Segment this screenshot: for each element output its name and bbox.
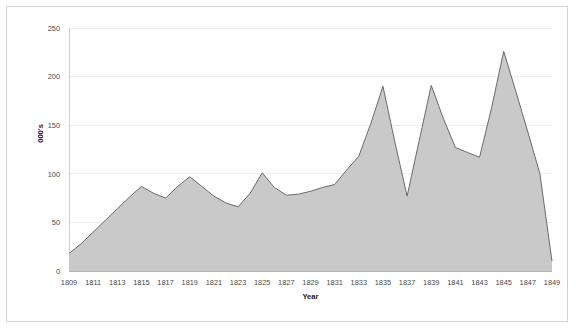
x-tick-label: 1831 bbox=[326, 278, 342, 287]
x-axis-title: Year bbox=[302, 292, 318, 301]
area-chart: 0501001502002501809181118131815181718191… bbox=[7, 7, 569, 323]
x-tick-label: 1809 bbox=[61, 278, 77, 287]
x-tick-label: 1845 bbox=[495, 278, 511, 287]
x-tick-label: 1815 bbox=[133, 278, 149, 287]
x-tick-label: 1833 bbox=[351, 278, 367, 287]
x-tick-label: 1813 bbox=[109, 278, 125, 287]
x-tick-label: 1837 bbox=[399, 278, 415, 287]
y-tick-label: 200 bbox=[48, 72, 60, 81]
x-tick-label: 1823 bbox=[230, 278, 246, 287]
y-tick-label: 100 bbox=[48, 170, 60, 179]
x-tick-label: 1835 bbox=[375, 278, 391, 287]
y-axis-title: 000's bbox=[36, 124, 45, 143]
area-series-fill bbox=[69, 51, 552, 271]
x-tick-label: 1829 bbox=[302, 278, 318, 287]
x-tick-label: 1843 bbox=[471, 278, 487, 287]
x-tick-label: 1827 bbox=[278, 278, 294, 287]
x-tick-label: 1825 bbox=[254, 278, 270, 287]
x-tick-label: 1849 bbox=[544, 278, 560, 287]
x-tick-label: 1817 bbox=[157, 278, 173, 287]
x-tick-label: 1841 bbox=[447, 278, 463, 287]
x-tick-label: 1847 bbox=[520, 278, 536, 287]
x-tick-label: 1839 bbox=[423, 278, 439, 287]
y-tick-label: 50 bbox=[52, 218, 60, 227]
x-tick-label: 1821 bbox=[206, 278, 222, 287]
y-tick-label: 150 bbox=[48, 121, 60, 130]
chart-frame: 0501001502002501809181118131815181718191… bbox=[6, 6, 568, 322]
x-tick-label: 1811 bbox=[85, 278, 101, 287]
y-tick-label: 0 bbox=[56, 267, 60, 276]
chart-plot-area: 0501001502002501809181118131815181718191… bbox=[7, 7, 567, 321]
y-tick-label: 250 bbox=[48, 24, 60, 33]
x-tick-label: 1819 bbox=[182, 278, 198, 287]
